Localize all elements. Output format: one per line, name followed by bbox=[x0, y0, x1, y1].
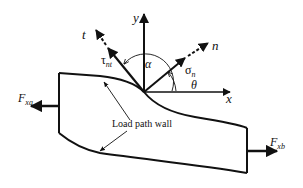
coordinate-axes bbox=[96, 14, 230, 92]
x-axis-label: x bbox=[225, 91, 232, 106]
y-axis-label: y bbox=[131, 10, 139, 25]
pointer-top-wall bbox=[104, 82, 130, 120]
force-right-label: Fxb bbox=[269, 135, 285, 151]
tau-nt-label: τnt bbox=[101, 53, 113, 69]
force-left-label: Fxa bbox=[17, 91, 33, 107]
n-axis-label: n bbox=[212, 38, 219, 53]
t-axis-label: t bbox=[82, 27, 86, 42]
pointer-bottom-wall bbox=[100, 131, 127, 151]
theta-label: θ bbox=[191, 78, 197, 92]
alpha-label: α bbox=[145, 57, 152, 71]
load-path-wall-label: Load path wall bbox=[112, 118, 172, 129]
t-axis-dashed bbox=[96, 30, 106, 45]
theta-arc bbox=[168, 72, 176, 91]
sigma-n-label: σn bbox=[185, 63, 195, 79]
load-path-diagram: y x n t α θ σn τnt Fxa Fxb Load path wal… bbox=[0, 0, 303, 188]
n-axis-dashed bbox=[188, 43, 208, 56]
